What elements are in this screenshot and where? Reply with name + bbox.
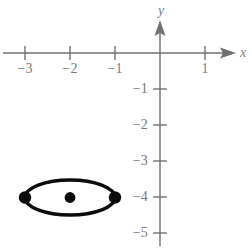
point-center (65, 192, 76, 203)
x-tick-label-neg3: −3 (17, 62, 32, 76)
ellipse-graph-figure: −3 −2 −1 1 −1 −2 −3 −4 −5 x y (0, 0, 252, 248)
point-right-vertex (109, 191, 121, 203)
y-tick-label-neg4: −4 (133, 190, 148, 204)
x-tick-label-neg1: −1 (107, 62, 122, 76)
y-axis-label: y (158, 4, 164, 18)
x-tick-label-neg2: −2 (62, 62, 77, 76)
y-tick-label-neg5: −5 (133, 226, 148, 240)
point-left-vertex (19, 191, 31, 203)
x-tick-label-pos1: 1 (201, 62, 208, 76)
y-tick-label-neg2: −2 (133, 118, 148, 132)
y-tick-label-neg1: −1 (133, 82, 148, 96)
x-axis-label: x (240, 46, 246, 60)
y-tick-label-neg3: −3 (133, 154, 148, 168)
coordinate-plane-svg (0, 0, 252, 248)
